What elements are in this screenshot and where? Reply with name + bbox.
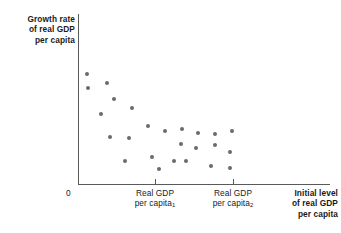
scatter-point [85,72,89,76]
origin-label: 0 [66,188,71,198]
scatter-point [194,146,198,150]
y-axis-title: Growth rate of real GDP per capita [28,14,75,45]
x-axis-tick-1 [155,179,156,185]
scatter-point [228,150,232,154]
x-tick-label-1: Real GDP per capita1 [117,188,193,211]
scatter-point [127,136,131,140]
scatter-point [228,166,232,170]
scatter-point [172,159,176,163]
scatter-point [213,132,217,136]
scatter-point [157,167,161,171]
scatter-point [99,112,103,116]
scatter-plot-figure: Growth rate of real GDP per capita 0 Rea… [0,0,341,233]
x-axis-line [78,184,330,185]
scatter-point [86,86,90,90]
scatter-point [150,155,154,159]
scatter-point [180,127,184,131]
scatter-point [179,142,183,146]
scatter-point [112,97,116,101]
scatter-point [163,129,167,133]
x-tick-label-2-line1: Real GDP [214,188,252,198]
scatter-point [213,143,217,147]
scatter-point [108,135,112,139]
scatter-point [209,164,213,168]
x-tick-label-2: Real GDP per capita2 [195,188,271,211]
x-tick-label-2-subscript: 2 [250,202,253,208]
x-tick-label-2-line2: per capita [213,198,250,208]
scatter-point [105,81,109,85]
x-tick-label-1-line1: Real GDP [136,188,174,198]
x-tick-label-1-line2: per capita [135,198,172,208]
x-axis-tick-2 [233,179,234,185]
scatter-point [196,131,200,135]
scatter-point [184,159,188,163]
x-tick-label-1-subscript: 1 [172,202,175,208]
scatter-point [123,159,127,163]
scatter-point [146,124,150,128]
y-axis-line [78,14,79,185]
scatter-point [130,106,134,110]
x-axis-title: Initial level of real GDP per capita [274,188,338,219]
scatter-point [230,129,234,133]
